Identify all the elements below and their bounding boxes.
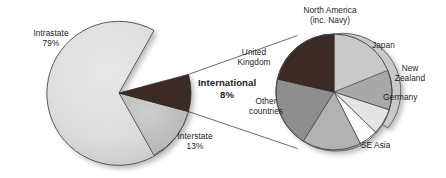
label-united-kingdom: United Kingdom: [229, 47, 279, 67]
label-germany: Germany: [383, 92, 441, 102]
label-new-zealand: New Zealand: [381, 63, 439, 83]
label-japan: Japan: [372, 40, 416, 50]
label-intrastate: Intrastate 79%: [14, 28, 88, 48]
label-interstate: Interstate 13%: [162, 131, 228, 151]
label-other-countries: Other countries: [238, 96, 294, 116]
label-north-america: North America (inc. Navy): [286, 5, 374, 25]
label-se-asia: SE Asia: [361, 140, 409, 150]
